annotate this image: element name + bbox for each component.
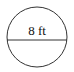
circle-diagram: 8 ft	[0, 0, 74, 72]
diameter-label: 8 ft	[0, 24, 74, 38]
